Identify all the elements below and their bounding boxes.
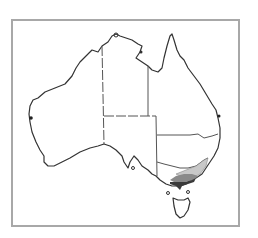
wa-coast-mark: [29, 116, 33, 120]
island-kangaroo: [132, 167, 135, 170]
island-flinders: [187, 191, 190, 194]
tasmania-coastline: [173, 198, 190, 218]
mainland-coastline: [29, 34, 220, 186]
qld-coast-mark: [218, 115, 221, 118]
island-king: [167, 192, 170, 195]
australia-map: [0, 0, 258, 238]
island-groote: [140, 51, 143, 54]
